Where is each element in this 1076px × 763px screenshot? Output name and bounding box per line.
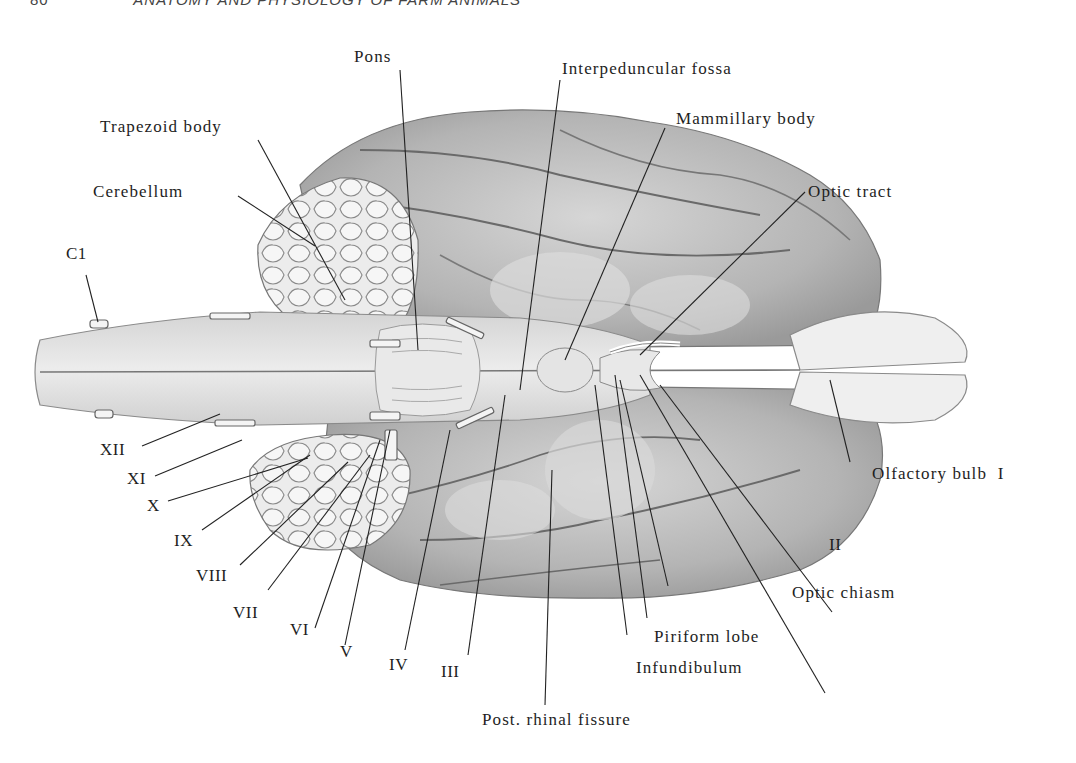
brain-illustration	[0, 0, 1076, 763]
label-nerve-v: V	[340, 643, 353, 660]
label-cerebellum: Cerebellum	[93, 183, 183, 200]
label-post-rhinal-fissure: Post. rhinal fissure	[482, 711, 631, 728]
label-nerve-xi: XI	[127, 470, 146, 487]
label-interpeduncular-fossa: Interpeduncular fossa	[562, 60, 732, 77]
label-nerve-xii: XII	[100, 441, 125, 458]
label-nerve-ix: IX	[174, 532, 193, 549]
label-piriform-lobe: Piriform lobe	[654, 628, 759, 645]
label-optic-chiasm: Optic chiasm	[792, 584, 895, 601]
label-pons: Pons	[354, 48, 391, 65]
label-nerve-iii: III	[441, 663, 459, 680]
pons-region	[375, 324, 480, 416]
label-nerve-viii: VIII	[196, 567, 227, 584]
label-nerve-x: X	[147, 497, 160, 514]
label-olfactory-bulb: Olfactory bulb I	[872, 465, 1004, 482]
label-nerve-vii: VII	[233, 604, 258, 621]
label-mammillary-body: Mammillary body	[676, 110, 816, 127]
label-nerve-iv: IV	[389, 656, 408, 673]
label-c1: C1	[66, 245, 87, 262]
cerebellum-upper	[258, 178, 418, 325]
label-optic-tract: Optic tract	[808, 183, 892, 200]
label-nerve-ii: II	[829, 536, 841, 553]
label-nerve-vi: VI	[290, 621, 309, 638]
label-infundibulum: Infundibulum	[636, 659, 743, 676]
label-trapezoid-body: Trapezoid body	[100, 118, 222, 135]
